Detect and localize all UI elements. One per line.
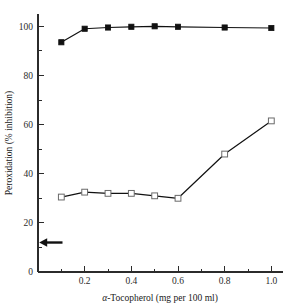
arrow-head-icon — [39, 238, 47, 246]
y-axis-tick-labels: 020406080100 — [19, 22, 34, 278]
series-open-square-series — [58, 118, 274, 201]
data-point-marker — [82, 189, 88, 195]
x-tick-label: 0.8 — [219, 276, 231, 286]
y-tick-label: 0 — [28, 267, 33, 277]
y-axis-title: Peroxidation (% inhibition) — [4, 91, 15, 196]
data-series-layer — [58, 24, 274, 202]
data-point-marker — [268, 118, 274, 124]
data-point-marker — [105, 190, 111, 196]
y-tick-label: 40 — [24, 169, 34, 179]
data-point-marker — [58, 194, 64, 200]
data-point-marker — [105, 25, 110, 30]
x-tick-label: 1.0 — [265, 276, 277, 286]
series-line-open-square-series — [61, 121, 271, 198]
left-arrow-marker — [39, 238, 62, 246]
y-tick-label: 80 — [24, 71, 34, 81]
data-point-marker — [152, 193, 158, 199]
x-tick-label: 0.4 — [125, 276, 137, 286]
chart-figure: 020406080100 0.20.40.60.81.0 α-Tocophero… — [0, 0, 290, 307]
x-tick-label: 0.2 — [79, 276, 91, 286]
x-axis-title-text: -Tocopherol (mg per 100 ml) — [107, 293, 218, 304]
series-line-filled-square-series — [61, 26, 271, 42]
data-point-marker — [129, 24, 134, 29]
y-tick-label: 20 — [24, 218, 34, 228]
data-point-marker — [59, 40, 64, 45]
data-point-marker — [128, 190, 134, 196]
axes-group — [38, 14, 283, 272]
data-point-marker — [269, 25, 274, 30]
series-filled-square-series — [59, 24, 274, 45]
y-tick-label: 100 — [19, 22, 34, 32]
x-axis-tick-labels: 0.20.40.60.81.0 — [79, 276, 278, 286]
annotation-layer — [39, 238, 62, 246]
chart-plot-area: 020406080100 0.20.40.60.81.0 α-Tocophero… — [0, 0, 290, 307]
y-axis-ticks — [38, 26, 44, 272]
x-axis-title: α-Tocopherol (mg per 100 ml) — [102, 293, 218, 304]
data-point-marker — [222, 25, 227, 30]
data-point-marker — [222, 151, 228, 157]
data-point-marker — [82, 26, 87, 31]
x-tick-label: 0.6 — [172, 276, 184, 286]
y-tick-label: 60 — [24, 120, 34, 130]
data-point-marker — [175, 195, 181, 201]
data-point-marker — [175, 24, 180, 29]
data-point-marker — [152, 24, 157, 29]
x-axis-ticks — [61, 266, 271, 272]
